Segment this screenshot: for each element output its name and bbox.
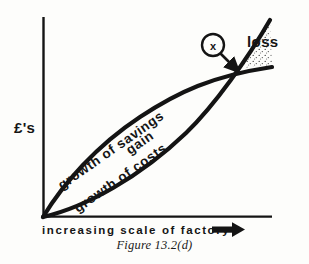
y-axis-label: £'s <box>14 119 35 136</box>
crossover-marker-label: x <box>210 40 217 52</box>
break-even-diagram: growth of savings growth of costs gain l… <box>0 0 309 264</box>
figure-page: growth of savings growth of costs gain l… <box>0 0 309 264</box>
figure-caption: Figure 13.2(d) <box>0 238 309 253</box>
crossover-marker-arrow <box>220 53 235 68</box>
loss-label: loss <box>247 33 279 50</box>
x-axis-label: increasing scale of factory <box>42 224 230 236</box>
